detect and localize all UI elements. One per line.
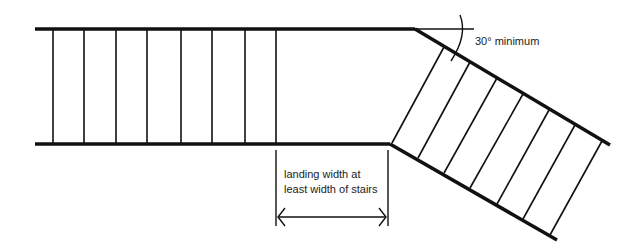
tread xyxy=(392,47,444,143)
tread xyxy=(497,110,549,204)
stair-landing-diagram: 30° minimum landing width at least width… xyxy=(0,0,644,249)
right-flight-bottom-stringer xyxy=(390,144,557,240)
left-flight xyxy=(35,29,415,144)
tread xyxy=(418,62,470,158)
landing-label-line1: landing width at xyxy=(284,168,360,180)
angle-label: 30° minimum xyxy=(475,35,539,47)
landing-label-line2: least width of stairs xyxy=(284,183,378,195)
right-flight xyxy=(390,29,610,240)
angle-indicator xyxy=(415,15,474,61)
left-flight-treads xyxy=(53,30,276,143)
tread xyxy=(444,78,497,173)
tread xyxy=(470,94,523,188)
